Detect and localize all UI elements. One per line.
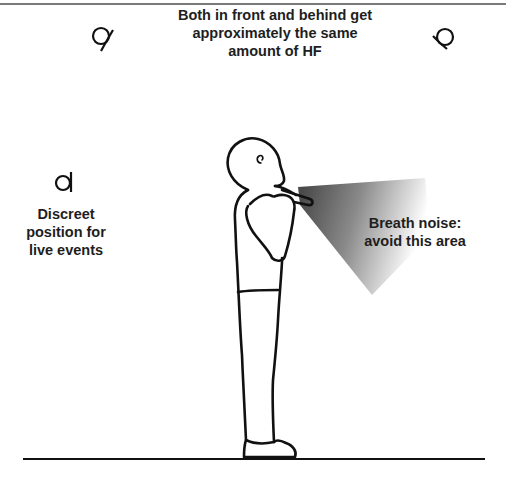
person-figure — [228, 138, 313, 457]
microphone-icon — [93, 28, 113, 51]
hf-note: Both in front and behind get approximate… — [175, 6, 375, 60]
hf-note-line: Both in front and behind get — [175, 6, 375, 24]
discreet-note-line: position for — [16, 223, 116, 241]
hf-note-line: approximately the same — [175, 24, 375, 42]
hf-note-line: amount of HF — [175, 42, 375, 60]
discreet-note: Discreet position for live events — [16, 205, 116, 259]
breath-noise-note: Breath noise: avoid this area — [355, 214, 475, 250]
breath-noise-note-line: Breath noise: — [355, 214, 475, 232]
discreet-note-line: live events — [16, 241, 116, 259]
microphone-icon — [433, 29, 453, 49]
breath-noise-note-line: avoid this area — [355, 232, 475, 250]
discreet-note-line: Discreet — [16, 205, 116, 223]
microphone-icon — [56, 172, 71, 192]
